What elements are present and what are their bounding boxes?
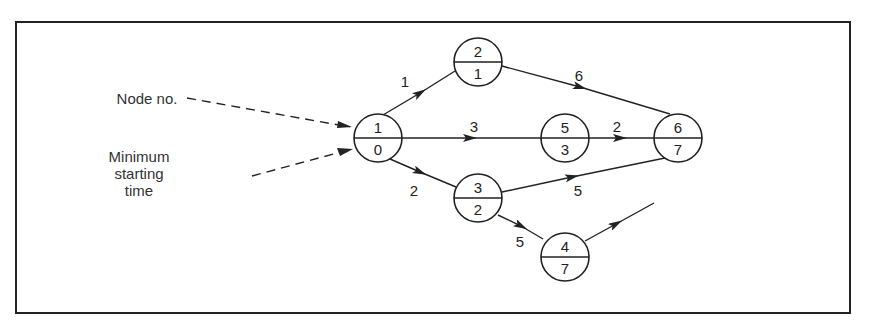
- min-start-line-1: Minimum: [109, 148, 170, 165]
- node-1: 1 0: [354, 114, 402, 162]
- node-min-start: 0: [374, 141, 382, 158]
- edge-duration-1-2: 1: [401, 73, 409, 90]
- node-no-annotation: Node no.: [117, 90, 178, 107]
- edge-duration-1-5: 3: [470, 118, 478, 135]
- edge-duration-3-4: 5: [516, 233, 524, 250]
- node-6: 6 7: [654, 114, 702, 162]
- node-2: 2 1: [454, 38, 502, 86]
- edge-duration-2-6: 6: [575, 67, 583, 84]
- node-number: 1: [374, 119, 382, 136]
- arrowhead-icon: [337, 121, 352, 128]
- edge-3-6: [502, 158, 665, 192]
- node-number: 3: [474, 179, 482, 196]
- edge-4-out: [585, 203, 654, 241]
- node-3: 3 2: [454, 174, 502, 222]
- min-start-pointer: [252, 149, 352, 176]
- edge-2-6: [502, 66, 670, 114]
- edge-1-3: [390, 159, 456, 187]
- edge-duration-5-6: 2: [613, 118, 621, 135]
- node-min-start: 7: [674, 141, 682, 158]
- node-min-start: 1: [474, 65, 482, 82]
- node-no-pointer: [187, 98, 350, 127]
- node-5: 5 3: [541, 114, 589, 162]
- node-number: 2: [474, 43, 482, 60]
- edge-duration-3-6: 5: [574, 182, 582, 199]
- edge-duration-1-3: 2: [410, 182, 418, 199]
- node-4: 4 7: [541, 233, 589, 281]
- arrowhead-icon: [337, 148, 353, 156]
- min-start-line-2: starting: [114, 165, 163, 182]
- min-start-line-3: time: [125, 182, 153, 199]
- node-min-start: 2: [474, 201, 482, 218]
- node-min-start: 7: [561, 260, 569, 277]
- network-diagram: Node no. Minimum starting time 1 3 2 6 2…: [0, 0, 869, 331]
- node-min-start: 3: [561, 141, 569, 158]
- node-number: 4: [561, 238, 569, 255]
- node-number: 5: [561, 119, 569, 136]
- edge-1-2: [383, 71, 455, 115]
- node-number: 6: [674, 119, 682, 136]
